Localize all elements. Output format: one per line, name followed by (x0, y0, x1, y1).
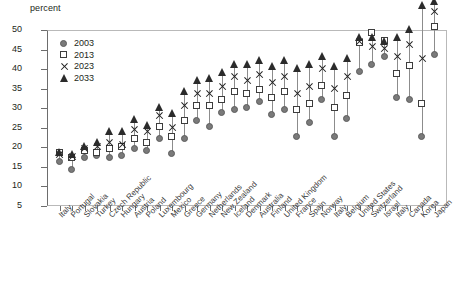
marker-triangle-2033 (268, 62, 276, 70)
marker-square-2013 (206, 102, 213, 109)
marker-circle-2003 (106, 154, 113, 161)
marker-triangle-2033 (380, 37, 388, 45)
marker-triangle-2033 (393, 33, 401, 41)
marker-x-2023 (243, 76, 252, 85)
marker-circle-2003 (431, 51, 438, 58)
marker-triangle-2033 (343, 54, 351, 62)
marker-triangle-2033 (60, 74, 68, 82)
marker-circle-2003 (231, 106, 238, 113)
legend-label: 2013 (74, 50, 94, 62)
marker-circle-2003 (181, 135, 188, 142)
legend-label: 2033 (74, 73, 94, 85)
legend-item[interactable]: 2013 (58, 50, 94, 62)
marker-square-2013 (231, 88, 238, 95)
marker-circle-2003 (156, 135, 163, 142)
marker-circle-2003 (281, 106, 288, 113)
marker-square-2013 (281, 88, 288, 95)
marker-x-2023 (430, 7, 439, 16)
marker-square-2013 (431, 23, 438, 30)
marker-square-2013 (418, 100, 425, 107)
marker-triangle-2033 (68, 150, 76, 158)
marker-triangle-2033 (130, 115, 138, 123)
marker-triangle-2033 (118, 127, 126, 135)
y-axis-tick-mark (41, 167, 47, 168)
marker-x-2023 (405, 40, 414, 49)
marker-square-2013 (143, 139, 150, 146)
marker-circle-2003 (418, 133, 425, 140)
y-axis-tick-mark (41, 206, 47, 207)
range-connector-line (297, 68, 298, 136)
marker-square-2013 (218, 96, 225, 103)
marker-circle-2003 (256, 98, 263, 105)
y-axis-tick-mark (41, 128, 47, 129)
marker-triangle-2033 (430, 0, 438, 5)
marker-square-2013 (331, 104, 338, 111)
y-axis-tick-mark (41, 69, 47, 70)
legend-swatch (58, 38, 70, 49)
marker-x-2023 (155, 111, 164, 120)
y-axis-tick-mark (41, 186, 47, 187)
y-axis-tick-label: 45 (0, 44, 22, 54)
marker-x-2023 (318, 64, 327, 73)
chart-container: percent 5101520253035404550 ItalyPortuga… (0, 0, 454, 308)
marker-triangle-2033 (180, 87, 188, 95)
marker-circle-2003 (81, 154, 88, 161)
marker-square-2013 (156, 123, 163, 130)
range-connector-line (422, 6, 423, 137)
marker-triangle-2033 (105, 127, 113, 135)
y-axis-tick-label: 25 (0, 122, 22, 132)
marker-circle-2003 (368, 61, 375, 68)
marker-circle-2003 (293, 133, 300, 140)
marker-square-2013 (243, 90, 250, 97)
range-connector-line (347, 59, 348, 120)
marker-square-2013 (256, 86, 263, 93)
y-axis-tick-mark (41, 108, 47, 109)
marker-x-2023 (230, 72, 239, 81)
marker-square-2013 (168, 133, 175, 140)
legend-item[interactable]: 2023 (58, 61, 94, 73)
marker-circle-2003 (131, 145, 138, 152)
marker-triangle-2033 (405, 25, 413, 33)
legend-item[interactable]: 2033 (58, 73, 94, 85)
marker-circle-2003 (331, 133, 338, 140)
marker-triangle-2033 (143, 121, 151, 129)
marker-triangle-2033 (330, 62, 338, 70)
y-axis-tick-label: 10 (0, 180, 22, 190)
y-axis-tick-label: 50 (0, 24, 22, 34)
marker-circle-2003 (393, 94, 400, 101)
range-connector-line (247, 65, 248, 108)
range-connector-line (284, 61, 285, 110)
y-axis-tick-label: 35 (0, 83, 22, 93)
marker-x-2023 (168, 123, 177, 132)
legend-item[interactable]: 2003 (58, 38, 94, 50)
marker-square-2013 (181, 117, 188, 124)
marker-x-2023 (305, 82, 314, 91)
marker-circle-2003 (318, 96, 325, 103)
marker-circle-2003 (143, 147, 150, 154)
range-connector-line (222, 72, 223, 113)
marker-circle-2003 (206, 123, 213, 130)
marker-x-2023 (330, 84, 339, 93)
marker-square-2013 (393, 70, 400, 77)
marker-x-2023 (293, 89, 302, 98)
marker-x-2023 (343, 72, 352, 81)
marker-square-2013 (343, 92, 350, 99)
marker-circle-2003 (381, 53, 388, 60)
marker-square-2013 (193, 102, 200, 109)
marker-x-2023 (380, 44, 389, 53)
range-connector-line (184, 92, 185, 139)
marker-triangle-2033 (318, 52, 326, 60)
marker-triangle-2033 (305, 60, 313, 68)
marker-triangle-2033 (368, 33, 376, 41)
marker-x-2023 (368, 42, 377, 51)
marker-circle-2003 (243, 104, 250, 111)
marker-triangle-2033 (230, 60, 238, 68)
marker-square-2013 (60, 51, 67, 58)
marker-triangle-2033 (418, 1, 426, 9)
marker-x-2023 (280, 72, 289, 81)
range-connector-line (259, 61, 260, 102)
y-axis-tick-label: 20 (0, 141, 22, 151)
range-connector-line (309, 65, 310, 124)
marker-triangle-2033 (193, 76, 201, 84)
marker-triangle-2033 (355, 33, 363, 41)
